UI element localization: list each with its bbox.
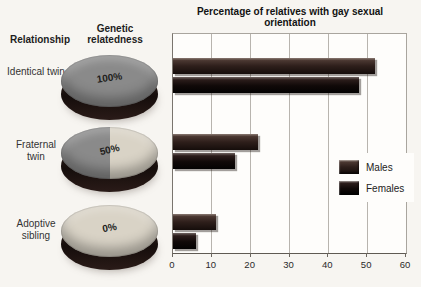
bar-females-identical-twin bbox=[173, 77, 359, 93]
legend-entry-males: Males bbox=[339, 160, 404, 174]
x-tick-label: 20 bbox=[238, 259, 262, 270]
genetic-relatedness-header: Genetic relatedness bbox=[82, 23, 148, 45]
x-tick-label: 30 bbox=[277, 259, 301, 270]
pie-chart-0: 0% bbox=[61, 205, 158, 273]
x-tick-label: 0 bbox=[160, 259, 184, 270]
pie-chart-50: 50% bbox=[61, 127, 158, 195]
bar-males-fraternal-twin bbox=[173, 134, 258, 150]
x-tick-mark bbox=[211, 253, 212, 257]
bar-females-adoptive-sibling bbox=[173, 233, 196, 249]
bar-males-identical-twin bbox=[173, 58, 375, 74]
legend-swatch-females bbox=[339, 181, 359, 195]
x-tick-label: 10 bbox=[199, 259, 223, 270]
row-label: Identical twin bbox=[6, 66, 66, 78]
bar-females-fraternal-twin bbox=[173, 153, 235, 169]
legend: Males Females bbox=[330, 153, 414, 202]
x-tick-label: 40 bbox=[315, 259, 339, 270]
legend-entry-females: Females bbox=[339, 181, 404, 195]
row-label: Adoptive sibling bbox=[6, 218, 66, 242]
relationship-header: Relationship bbox=[6, 34, 74, 45]
x-tick-mark bbox=[405, 253, 406, 257]
x-tick-label: 50 bbox=[354, 259, 378, 270]
x-tick-mark bbox=[250, 253, 251, 257]
row-label: Fraternal twin bbox=[6, 139, 66, 163]
legend-label-females: Females bbox=[366, 183, 404, 194]
legend-swatch-males bbox=[339, 160, 359, 174]
x-tick-label: 60 bbox=[393, 259, 417, 270]
plot-area: Males Females bbox=[172, 33, 407, 254]
pie-chart-100: 100% bbox=[61, 55, 158, 123]
legend-label-males: Males bbox=[366, 162, 393, 173]
x-tick-mark bbox=[289, 253, 290, 257]
x-tick-mark bbox=[366, 253, 367, 257]
chart-title: Percentage of relatives with gay sexual … bbox=[172, 6, 408, 28]
x-tick-mark bbox=[172, 253, 173, 257]
bar-males-adoptive-sibling bbox=[173, 214, 216, 230]
x-tick-mark bbox=[327, 253, 328, 257]
x-axis: 0102030405060 bbox=[172, 253, 406, 275]
figure: Relationship Genetic relatedness Identic… bbox=[0, 0, 421, 287]
